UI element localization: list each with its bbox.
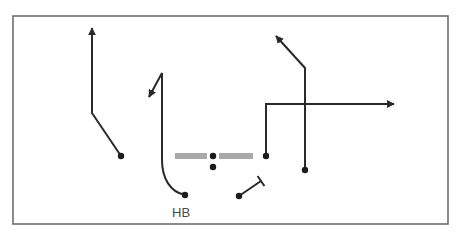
player-blocker <box>236 193 242 199</box>
field-frame <box>13 16 448 224</box>
players <box>118 153 308 199</box>
player-right-receiver <box>302 167 308 173</box>
block-t-icon <box>258 176 265 186</box>
player-center <box>210 153 216 159</box>
left-receiver-route <box>92 28 121 156</box>
player-halfback <box>182 192 188 198</box>
routes <box>92 28 394 196</box>
halfback-label: HB <box>172 205 190 220</box>
halfback-route <box>149 73 185 195</box>
player-left-receiver <box>118 153 124 159</box>
player-quarterback <box>210 164 216 170</box>
slot-receiver-route <box>266 104 394 156</box>
play-diagram: HB <box>0 0 459 235</box>
blocker-block <box>239 181 261 196</box>
player-slot-receiver <box>263 153 269 159</box>
